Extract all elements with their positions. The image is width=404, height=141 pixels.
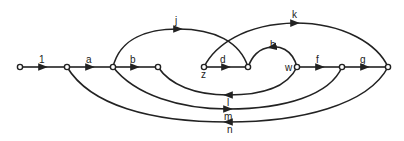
label-k: k <box>292 9 298 20</box>
label-z: z <box>201 69 206 80</box>
label-w: w <box>284 62 293 73</box>
label-j: j <box>174 15 177 26</box>
node-5 <box>245 64 250 69</box>
label-m: m <box>224 111 232 122</box>
node-output <box>385 64 390 69</box>
node-2 <box>110 64 115 69</box>
label-a: a <box>86 54 92 65</box>
label-h: h <box>270 39 276 50</box>
label-l: l <box>227 97 229 108</box>
label-g: g <box>360 54 366 65</box>
signal-flow-graph: 1 a b d h f g j k l m n z w <box>0 0 404 141</box>
node-w <box>294 64 299 69</box>
node-1 <box>64 64 69 69</box>
label-1: 1 <box>39 54 45 65</box>
label-b: b <box>130 54 136 65</box>
node-7 <box>339 64 344 69</box>
node-input <box>17 64 22 69</box>
diagram-canvas: 1 a b d h f g j k l m n z w <box>0 0 404 141</box>
label-n: n <box>227 124 233 135</box>
edge-l <box>158 67 297 95</box>
label-f: f <box>316 54 319 65</box>
node-3 <box>155 64 160 69</box>
label-d: d <box>220 54 226 65</box>
